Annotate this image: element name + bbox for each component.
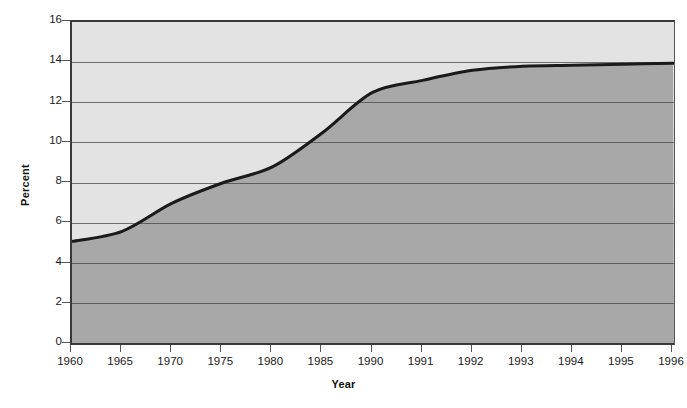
x-axis-tick-label: 1992: [444, 355, 498, 368]
x-axis-tick-mark: [170, 345, 171, 352]
x-axis-tick-mark: [571, 345, 572, 352]
x-axis-tick-mark: [270, 345, 271, 352]
x-axis-tick-label: 1970: [143, 355, 197, 368]
x-axis-tick-labels: 1960196519701975198019851990199119921993…: [70, 355, 674, 373]
x-axis-tick-mark: [521, 345, 522, 352]
x-axis-tick-mark: [421, 345, 422, 352]
y-axis-tick-label: 12: [36, 95, 62, 107]
x-axis-tick-label: 1991: [394, 355, 448, 368]
x-axis-tick-mark: [671, 345, 672, 352]
x-axis-tick-mark: [120, 345, 121, 352]
y-axis-tick-label: 2: [36, 296, 62, 308]
x-axis-tick-label: 1996: [644, 355, 687, 368]
y-axis-title-text: Percent: [19, 164, 31, 206]
x-axis-tick-mark: [621, 345, 622, 352]
y-axis-tick-label: 4: [36, 256, 62, 268]
area-chart-svg: [72, 22, 674, 344]
x-axis-tick-label: 1985: [293, 355, 347, 368]
area-fill: [72, 63, 674, 344]
x-axis-tick-label: 1965: [93, 355, 147, 368]
y-axis-tick-label: 6: [36, 215, 62, 227]
plot-area: [70, 20, 675, 345]
chart-figure: Percent 0246810121416 196019651970197519…: [0, 0, 687, 408]
y-axis-tick-label: 10: [36, 135, 62, 147]
x-axis-tick-label: 1980: [243, 355, 297, 368]
x-axis-title: Year: [0, 378, 687, 390]
x-axis-tick-mark: [70, 345, 71, 352]
x-axis-tick-marks: [70, 345, 674, 353]
x-axis-tick-mark: [471, 345, 472, 352]
y-axis-tick-label: 0: [36, 336, 62, 348]
y-axis-tick-labels: 0246810121416: [34, 0, 62, 408]
y-axis-tick-label: 16: [36, 14, 62, 26]
x-axis-tick-label: 1975: [193, 355, 247, 368]
x-axis-tick-mark: [320, 345, 321, 352]
x-axis-tick-label: 1994: [544, 355, 598, 368]
y-axis-tick-label: 14: [36, 54, 62, 66]
x-axis-tick-label: 1990: [344, 355, 398, 368]
plot-inner: [72, 22, 674, 344]
y-axis-tick-label: 8: [36, 175, 62, 187]
x-axis-tick-label: 1995: [594, 355, 648, 368]
x-axis-tick-mark: [220, 345, 221, 352]
x-axis-tick-label: 1993: [494, 355, 548, 368]
x-axis-tick-mark: [371, 345, 372, 352]
x-axis-tick-label: 1960: [43, 355, 97, 368]
